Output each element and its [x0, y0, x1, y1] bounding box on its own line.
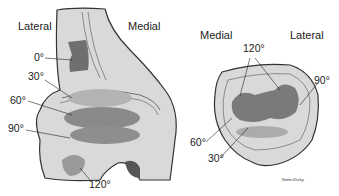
femur-label-lateral: Lateral [18, 20, 52, 32]
femur-angle-30: 30° [28, 70, 44, 82]
contact-zone-90 [70, 126, 140, 144]
patella-angle-90: 90° [314, 74, 330, 86]
femur-angle-120: 120° [89, 178, 111, 190]
femur-angle-90: 90° [8, 122, 24, 134]
patella-angle-120: 120° [243, 42, 265, 54]
patella-label-lateral: Lateral [290, 29, 324, 41]
patella-label-medial: Medial [200, 29, 232, 41]
patella-contact-zone-light [236, 126, 288, 138]
artist-signature: Netter/Dicky [282, 177, 304, 182]
femur-angle-60: 60° [10, 94, 26, 106]
contact-zone-30 [68, 89, 132, 107]
patella-angle-30: 30° [208, 152, 224, 164]
contact-zone-60 [64, 107, 140, 129]
femur-label-medial: Medial [128, 20, 160, 32]
patella-illustration [206, 58, 318, 166]
knee-contact-diagram: Lateral Medial 0° 30° 60° 90° 120° Media… [0, 0, 339, 196]
femur-angle-0: 0° [34, 51, 44, 63]
femur-illustration [26, 8, 176, 180]
patella-angle-60: 60° [190, 136, 206, 148]
